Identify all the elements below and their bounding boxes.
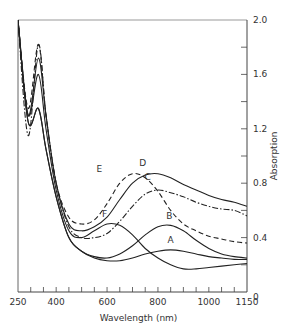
curve-D [18, 20, 247, 231]
x-tick-label: 1000 [197, 297, 220, 307]
curve-C [18, 20, 247, 239]
plot-frame [18, 20, 247, 292]
spectrum-curves [18, 20, 247, 269]
curve-label-C: C [145, 172, 151, 182]
x-tick-label: 800 [149, 297, 166, 307]
curve-label-B: B [166, 211, 172, 221]
curve-F [18, 20, 247, 269]
y-tick-label: 0 [253, 292, 259, 302]
y-tick-label: 1.6 [253, 69, 268, 79]
curve-label-D: D [139, 158, 146, 168]
curve-labels: ABCDEF [97, 158, 175, 246]
x-tick-label: 250 [9, 297, 26, 307]
x-axis-title: Wavelength (nm) [100, 313, 178, 323]
curve-label-F: F [102, 209, 107, 219]
y-tick-label: 1.2 [253, 124, 267, 134]
y-tick-label: 0.4 [253, 233, 268, 243]
x-tick-label: 400 [48, 297, 65, 307]
curve-label-E: E [97, 164, 103, 174]
curve-B [18, 20, 247, 258]
curve-A [18, 20, 247, 261]
y-axis-title: Absorption [269, 132, 279, 181]
y-tick-label: 2.0 [253, 15, 268, 25]
x-tick-label: 600 [98, 297, 115, 307]
y-tick-label: 0.8 [253, 178, 268, 188]
axis-ticks [31, 47, 247, 292]
curve-E [18, 20, 247, 243]
absorption-spectrum-chart: 2504006008001000115000.40.81.21.62.0Wave… [0, 0, 288, 330]
curve-label-A: A [168, 235, 175, 245]
